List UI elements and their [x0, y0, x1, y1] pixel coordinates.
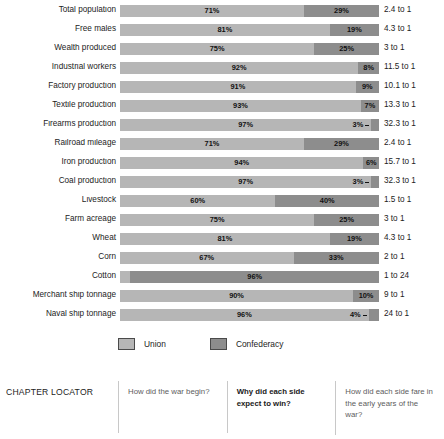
bar-segment-union: 71%	[120, 138, 304, 150]
chart-row: Iron production94%6%15.7 to 1	[0, 153, 444, 172]
chart-row: Railroad mileage71%29%2.4 to 1	[0, 134, 444, 153]
chart-row: Merchant ship tonnage90%10%9 to 1	[0, 286, 444, 305]
bar-segment-value: 92%	[232, 64, 247, 71]
bar-segment-value: 71%	[205, 7, 220, 14]
bar-segment-value: 7%	[365, 102, 376, 109]
bar-segment-union: 96%	[120, 309, 369, 321]
bar-segment-conf: 3%	[371, 176, 379, 188]
bar-segment-value: 90%	[229, 292, 244, 299]
row-ratio: 2.4 to 1	[379, 139, 444, 147]
bar-segment-conf: 9%	[356, 81, 379, 93]
row-label: Livestock	[0, 196, 120, 204]
bar-segment-conf: 10%	[353, 290, 379, 302]
bar-segment-value: 29%	[334, 7, 349, 14]
chart-row: Farm acreage75%25%3 to 1	[0, 210, 444, 229]
row-label: Industrial workers	[0, 63, 120, 71]
legend-item: Confederacy	[210, 338, 284, 350]
bar-segment-union: 97%	[120, 119, 371, 131]
bar-track: 90%10%	[120, 290, 379, 302]
chart-row: Wealth produced75%25%3 to 1	[0, 39, 444, 58]
legend-label: Union	[144, 340, 166, 348]
chart-row: Industrial workers92%8%11.5 to 1	[0, 58, 444, 77]
row-ratio: 3 to 1	[379, 44, 444, 52]
bar-segment-value: 19%	[347, 26, 362, 33]
comparison-bar-chart: Total population71%29%2.4 to 1Free males…	[0, 0, 444, 324]
row-ratio: 9 to 1	[379, 291, 444, 299]
bar-segment-value: 3%	[353, 121, 370, 128]
row-ratio: 32.3 to 1	[379, 177, 444, 185]
row-label: Coal production	[0, 177, 120, 185]
chapter-locator-title: CHAPTER LOCATOR	[0, 381, 118, 398]
bar-segment-conf: 6%	[363, 157, 379, 169]
row-ratio: 4.3 to 1	[379, 234, 444, 242]
chapter-locator-question[interactable]: How did each side fare in the early year…	[335, 381, 444, 435]
chart-row: Firearms production97%3%32.3 to 1	[0, 115, 444, 134]
row-label: Wheat	[0, 234, 120, 242]
bar-segment-value: 3%	[353, 178, 370, 185]
row-ratio: 4.3 to 1	[379, 25, 444, 33]
row-ratio: 10.1 to 1	[379, 82, 444, 90]
bar-segment-union: 60%	[120, 195, 275, 207]
chart-row: Total population71%29%2.4 to 1	[0, 1, 444, 20]
bar-segment-value: 19%	[347, 235, 362, 242]
bar-segment-union: 67%	[120, 252, 294, 264]
bar-track: 67%33%	[120, 252, 379, 264]
chart-row: Naval ship tonnage96%4%24 to 1	[0, 305, 444, 324]
row-label: Factory production	[0, 82, 120, 90]
bar-segment-conf: 96%	[130, 271, 379, 283]
bar-segment-conf: 19%	[330, 233, 379, 245]
row-label: Wealth produced	[0, 44, 120, 52]
bar-segment-value: 94%	[234, 159, 249, 166]
bar-track: 60%40%	[120, 195, 379, 207]
bar-segment-value: 81%	[217, 235, 232, 242]
bar-segment-value: 33%	[329, 254, 344, 261]
bar-segment-conf: 29%	[304, 5, 379, 17]
row-label: Total population	[0, 6, 120, 14]
bar-track: 91%9%	[120, 81, 379, 93]
bar-segment-union: 94%	[120, 157, 363, 169]
bar-track: 93%7%	[120, 100, 379, 112]
row-label: Iron production	[0, 158, 120, 166]
row-ratio: 13.3 to 1	[379, 101, 444, 109]
row-ratio: 2 to 1	[379, 253, 444, 261]
chapter-locator: CHAPTER LOCATOR How did the war begin?Wh…	[0, 381, 444, 435]
chapter-locator-question[interactable]: Why did each side expect to win?	[227, 381, 336, 433]
bar-track: 81%19%	[120, 24, 379, 36]
row-ratio: 32.3 to 1	[379, 120, 444, 128]
row-ratio: 15.7 to 1	[379, 158, 444, 166]
bar-track: 4%96%	[120, 271, 379, 283]
row-ratio: 3 to 1	[379, 215, 444, 223]
legend-item: Union	[118, 338, 166, 350]
bar-segment-conf: 8%	[358, 62, 379, 74]
bar-segment-union: 97%	[120, 176, 371, 188]
bar-track: 75%25%	[120, 43, 379, 55]
row-label: Free males	[0, 25, 120, 33]
legend-label: Confederacy	[236, 340, 284, 348]
chart-row: Textile production93%7%13.3 to 1	[0, 96, 444, 115]
bar-track: 75%25%	[120, 214, 379, 226]
bar-track: 97%3%	[120, 119, 379, 131]
bar-segment-value: 29%	[334, 140, 349, 147]
bar-segment-value: 9%	[362, 83, 373, 90]
chapter-locator-question[interactable]: How did the war begin?	[118, 381, 227, 433]
bar-segment-value: 10%	[359, 292, 374, 299]
bar-segment-value: 6%	[366, 159, 377, 166]
chart-row: Coal production97%3%32.3 to 1	[0, 172, 444, 191]
row-ratio: 1 to 24	[379, 272, 444, 280]
row-label: Textile production	[0, 101, 120, 109]
bar-segment-union: 81%	[120, 24, 330, 36]
bar-segment-value: 60%	[190, 197, 205, 204]
bar-track: 71%29%	[120, 5, 379, 17]
bar-segment-value: 96%	[237, 311, 252, 318]
bar-track: 94%6%	[120, 157, 379, 169]
bar-segment-value: 40%	[320, 197, 335, 204]
bar-segment-union: 91%	[120, 81, 356, 93]
bar-segment-conf: 7%	[361, 100, 379, 112]
chart-row: Factory production91%9%10.1 to 1	[0, 77, 444, 96]
chart-row: Wheat81%19%4.3 to 1	[0, 229, 444, 248]
bar-segment-value: 75%	[210, 216, 225, 223]
bar-track: 96%4%	[120, 309, 379, 321]
bar-segment-conf: 25%	[314, 214, 379, 226]
bar-segment-value: 8%	[363, 64, 374, 71]
bar-segment-conf: 25%	[314, 43, 379, 55]
